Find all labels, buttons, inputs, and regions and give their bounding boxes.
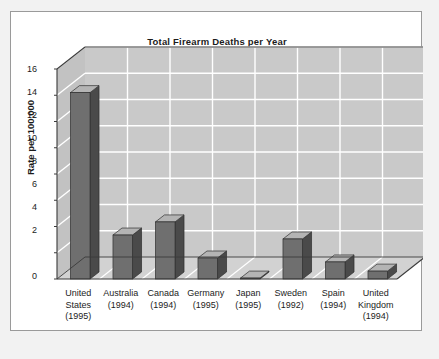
x-tick-line: Kingdom <box>345 300 407 312</box>
chart-card: Total Firearm Deaths per Year Rate per 1… <box>10 11 422 331</box>
y-tick-12: 12 <box>15 110 37 120</box>
x-tick-label: UnitedKingdom(1994) <box>345 288 407 323</box>
screenshot-root: Total Firearm Deaths per Year Rate per 1… <box>0 0 439 359</box>
bar <box>113 228 142 279</box>
chart-walls <box>57 47 423 279</box>
y-tick-2: 2 <box>15 225 37 235</box>
bar <box>70 86 99 279</box>
bar <box>198 251 227 279</box>
x-tick-line: United <box>345 288 407 300</box>
y-tick-0: 0 <box>15 271 37 281</box>
chart-3d-scene <box>11 12 423 332</box>
x-tick-line: (1995) <box>47 311 109 323</box>
bar <box>325 255 354 279</box>
bar <box>283 232 312 279</box>
y-tick-4: 4 <box>15 202 37 212</box>
y-tick-8: 8 <box>15 156 37 166</box>
y-tick-14: 14 <box>15 87 37 97</box>
y-tick-6: 6 <box>15 179 37 189</box>
chart-plot-area: Rate per 100,000 16 14 12 10 8 6 4 2 0 U… <box>11 12 423 332</box>
y-tick-10: 10 <box>15 133 37 143</box>
x-tick-line: (1994) <box>345 311 407 323</box>
bar <box>155 215 184 279</box>
y-tick-16: 16 <box>15 64 37 74</box>
